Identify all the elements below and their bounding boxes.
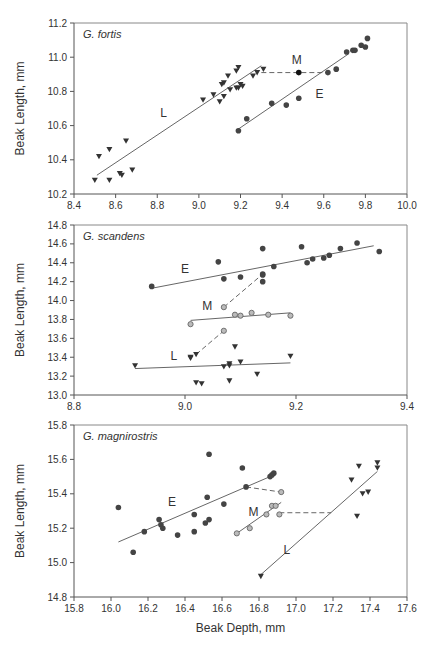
group-label-m: M	[292, 53, 302, 67]
data-point-l	[354, 514, 360, 519]
data-point-m	[264, 512, 269, 517]
data-point-e	[142, 529, 148, 535]
data-point-m	[232, 312, 237, 317]
x-tick-label: 9.0	[178, 401, 192, 412]
data-point-e	[244, 116, 250, 122]
y-tick-label: 10.4	[48, 154, 68, 165]
x-tick-label: 16.8	[249, 603, 269, 614]
data-point-e	[238, 274, 244, 280]
x-tick-label: 17.6	[397, 603, 417, 614]
data-point-e	[354, 240, 360, 246]
x-tick-label: 16.6	[212, 603, 232, 614]
y-tick-label: 13.6	[48, 333, 68, 344]
group-label-l: L	[171, 349, 178, 363]
data-point-e	[271, 470, 277, 476]
x-tick-label: 17.0	[286, 603, 306, 614]
group-label-l: L	[160, 106, 167, 120]
y-tick-label: 11.2	[48, 18, 67, 29]
data-point-l	[374, 460, 380, 465]
data-point-e	[310, 256, 316, 262]
y-tick-label: 14.0	[48, 295, 68, 306]
data-point-l	[193, 352, 199, 357]
group-label-e: E	[181, 262, 189, 276]
data-point-l	[226, 378, 232, 383]
data-point-l	[227, 87, 233, 92]
x-tick-label: 8.6	[109, 200, 123, 211]
data-point-l	[106, 147, 112, 152]
data-point-m	[249, 310, 254, 315]
data-point-l	[193, 380, 199, 385]
data-point-e	[283, 102, 289, 108]
data-point-e	[269, 101, 275, 107]
x-tick-label: 9.4	[275, 200, 289, 211]
data-point-e	[204, 494, 210, 500]
data-point-e	[191, 529, 197, 535]
x-tick-label: 10.0	[397, 200, 417, 211]
data-point-m	[247, 526, 252, 531]
data-point-l	[287, 354, 293, 359]
data-point-e	[260, 272, 266, 278]
x-tick-label: 8.8	[150, 200, 164, 211]
data-point-m	[234, 531, 239, 536]
y-tick-label: 13.4	[48, 352, 68, 363]
y-tick-label: 14.2	[48, 276, 68, 287]
data-point-l	[199, 381, 205, 386]
y-tick-label: 10.6	[48, 120, 68, 131]
data-point-l	[238, 359, 244, 364]
fit-line-m-l	[196, 331, 224, 355]
x-tick-label: 16.4	[175, 603, 195, 614]
data-point-m	[188, 322, 193, 327]
x-tick-label: 17.4	[360, 603, 380, 614]
data-point-e	[344, 49, 350, 55]
x-tick-label: 9.2	[234, 200, 248, 211]
data-point-e	[333, 66, 339, 72]
y-tick-label: 13.2	[48, 371, 68, 382]
y-axis-label: Beak Length, mm	[13, 464, 27, 558]
data-point-e	[149, 284, 155, 290]
panel-title: G. scandens	[83, 230, 145, 242]
fit-line-l	[261, 471, 378, 574]
data-point-e	[221, 501, 227, 507]
data-point-e	[206, 451, 212, 457]
data-point-e	[363, 44, 369, 50]
data-point-l	[221, 94, 227, 99]
y-tick-label: 10.8	[48, 86, 68, 97]
fit-line-l	[135, 363, 290, 369]
data-point-l	[129, 168, 135, 173]
data-point-l	[258, 574, 264, 579]
data-point-l	[92, 178, 98, 183]
y-tick-label: 15.2	[48, 523, 68, 534]
y-tick-label: 14.8	[48, 592, 68, 603]
data-point-l	[260, 67, 266, 72]
fit-line-e-m	[224, 274, 263, 307]
data-point-e	[221, 276, 227, 282]
data-point-l	[374, 466, 380, 471]
data-point-e	[216, 259, 222, 265]
fit-line-l	[97, 66, 261, 175]
x-tick-label: 8.4	[67, 200, 81, 211]
data-point-m	[288, 313, 293, 318]
group-label-m: M	[202, 299, 212, 313]
x-tick-label: 9.0	[192, 200, 206, 211]
x-tick-label: 9.4	[400, 401, 414, 412]
panel-0: 8.48.68.89.09.29.49.69.810.010.210.410.6…	[13, 18, 417, 212]
x-tick-label: 9.2	[289, 401, 303, 412]
data-point-m	[266, 312, 271, 317]
x-axis-label: Beak Depth, mm	[196, 621, 285, 635]
data-point-e	[327, 252, 333, 258]
data-point-e	[116, 505, 122, 511]
data-point-e	[376, 249, 382, 255]
data-point-l	[232, 344, 238, 349]
panel-title: G. fortis	[83, 28, 122, 40]
data-point-l	[96, 154, 102, 159]
data-point-l	[217, 99, 223, 104]
x-tick-label: 9.6	[317, 200, 331, 211]
y-tick-label: 15.8	[48, 420, 68, 431]
data-point-e	[325, 70, 331, 76]
data-point-m	[221, 328, 226, 333]
data-point-l	[106, 178, 112, 183]
data-point-e	[299, 244, 305, 250]
data-point-m	[221, 305, 226, 310]
y-tick-label: 13.8	[48, 314, 68, 325]
data-point-e	[321, 255, 327, 261]
